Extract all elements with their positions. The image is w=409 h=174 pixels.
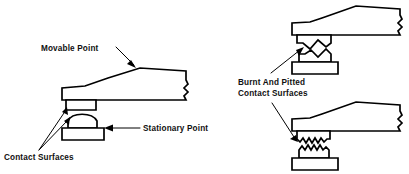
label-burnt-pitted-line2: Contact Surfaces — [238, 89, 308, 98]
left-diagram: Movable Point Stationary Point Contact S… — [4, 44, 208, 162]
stationary-point-arrowhead — [104, 125, 113, 132]
br-stationary-base — [292, 158, 338, 170]
bottom-right-diagram — [272, 102, 402, 170]
left-stationary-contact — [68, 114, 97, 128]
tr-stationary-base — [292, 62, 338, 74]
left-stationary-base — [62, 128, 104, 140]
figure-canvas: Movable Point Stationary Point Contact S… — [0, 0, 409, 174]
left-movable-arm — [62, 68, 188, 100]
left-movable-contact — [66, 100, 96, 110]
br-movable-arm — [292, 102, 402, 131]
tr-stationary-contact-peaked — [299, 49, 331, 62]
burnt-pitted-leader-line-lower — [272, 103, 294, 137]
tr-movable-arm — [292, 6, 402, 35]
movable-point-arrowhead — [127, 60, 136, 68]
br-movable-contact-jagged — [297, 131, 330, 143]
top-right-diagram — [271, 6, 402, 74]
burnt-pitted-label-group: Burnt And Pitted Contact Surfaces — [238, 78, 308, 98]
label-contact-surfaces: Contact Surfaces — [4, 153, 74, 162]
breaker-points-diagram: Movable Point Stationary Point Contact S… — [0, 0, 409, 174]
tr-movable-contact-pitted — [297, 35, 331, 49]
label-burnt-pitted-line1: Burnt And Pitted — [238, 78, 305, 87]
br-stationary-contact-jagged — [299, 145, 329, 158]
label-stationary-point: Stationary Point — [143, 124, 208, 133]
label-movable-point: Movable Point — [41, 44, 99, 53]
